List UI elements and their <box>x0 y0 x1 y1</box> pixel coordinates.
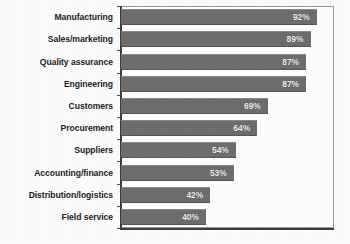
axis-tick <box>117 6 121 7</box>
bar-row: 42% <box>121 187 334 203</box>
axis-tick <box>117 206 121 207</box>
bar-chart: ManufacturingSales/marketingQuality assu… <box>0 0 350 244</box>
bar-row: 69% <box>121 98 334 114</box>
category-label: Suppliers <box>0 145 113 155</box>
axis-tick <box>117 73 121 74</box>
bar-row: 87% <box>121 76 334 92</box>
bar-value-label: 89% <box>287 34 304 44</box>
bar-row: 54% <box>121 142 334 158</box>
bars-layer: 92%89%87%87%69%64%54%53%42%40% <box>121 6 334 228</box>
axis-tick <box>117 28 121 29</box>
bar-row: 92% <box>121 9 334 25</box>
bar-row: 87% <box>121 54 334 70</box>
category-label: Customers <box>0 101 113 111</box>
bar-row: 53% <box>121 165 334 181</box>
bar-row: 64% <box>121 120 334 136</box>
category-label: Sales/marketing <box>0 34 113 44</box>
category-label: Quality assurance <box>0 57 113 67</box>
category-label: Distribution/logistics <box>0 190 113 200</box>
category-label: Manufacturing <box>0 12 113 22</box>
category-label: Procurement <box>0 123 113 133</box>
bar-value-label: 69% <box>244 101 261 111</box>
category-label: Accounting/finance <box>0 168 113 178</box>
bar <box>121 54 306 70</box>
category-label: Engineering <box>0 79 113 89</box>
bar <box>121 31 311 47</box>
category-baseline <box>120 228 334 230</box>
axis-tick <box>117 95 121 96</box>
bar-value-label: 42% <box>186 190 203 200</box>
bar-value-label: 64% <box>233 123 250 133</box>
bar-row: 40% <box>121 209 334 225</box>
category-label: Field service <box>0 212 113 222</box>
bar-value-label: 40% <box>182 212 199 222</box>
axis-tick <box>117 161 121 162</box>
axis-tick <box>117 184 121 185</box>
bar-value-label: 53% <box>210 168 227 178</box>
bar-value-label: 92% <box>293 12 310 22</box>
axis-tick <box>117 228 121 229</box>
axis-tick <box>117 139 121 140</box>
category-axis: ManufacturingSales/marketingQuality assu… <box>0 6 117 228</box>
bar <box>121 76 306 92</box>
bar-value-label: 87% <box>282 79 299 89</box>
bar-value-label: 54% <box>212 145 229 155</box>
bar-row: 89% <box>121 31 334 47</box>
axis-tick <box>117 117 121 118</box>
bar <box>121 9 317 25</box>
axis-tick <box>117 50 121 51</box>
bar-value-label: 87% <box>282 57 299 67</box>
